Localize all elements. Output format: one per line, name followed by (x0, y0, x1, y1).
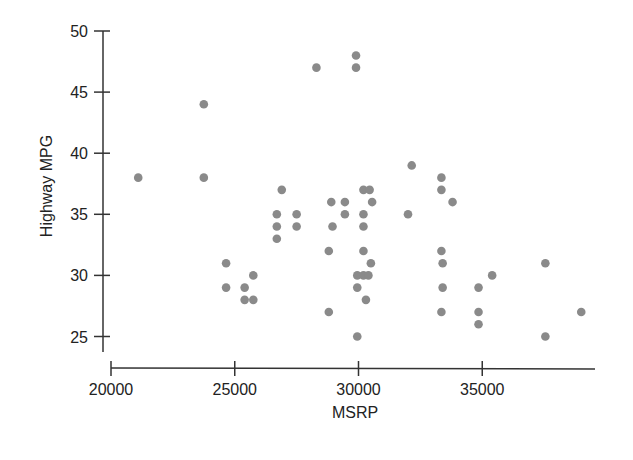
data-point (404, 210, 413, 219)
data-point (328, 222, 337, 231)
data-point (368, 198, 377, 207)
x-tick-label: 25000 (213, 381, 258, 398)
data-point (353, 332, 362, 341)
data-point (474, 320, 483, 329)
data-point (438, 259, 447, 268)
x-tick-label: 35000 (460, 381, 505, 398)
data-point (437, 308, 446, 317)
data-point (437, 186, 446, 195)
x-axis-line (111, 368, 595, 369)
x-tick-label: 20000 (89, 381, 134, 398)
data-point (249, 296, 258, 305)
data-point (407, 161, 416, 170)
data-point (273, 222, 282, 231)
y-axis-ticks: 253035404550 (70, 23, 110, 346)
data-point (273, 234, 282, 243)
data-point (367, 259, 376, 268)
data-point (448, 198, 457, 207)
data-point (327, 198, 336, 207)
x-axis-title: MSRP (332, 404, 378, 421)
data-points (134, 51, 586, 341)
data-point (353, 283, 362, 292)
x-axis: 20000250003000035000 MSRP (89, 361, 595, 421)
data-point (359, 247, 368, 256)
data-point (359, 222, 368, 231)
x-tick-label: 30000 (336, 381, 381, 398)
y-tick-label: 45 (70, 84, 88, 101)
y-tick-label: 30 (70, 267, 88, 284)
scatter-chart: 253035404550 Highway MPG 200002500030000… (0, 0, 633, 460)
data-point (134, 173, 143, 182)
y-tick-label: 50 (70, 23, 88, 40)
data-point (541, 259, 550, 268)
y-tick-label: 25 (70, 329, 88, 346)
x-axis-ticks: 20000250003000035000 (89, 361, 505, 398)
data-point (222, 259, 231, 268)
data-point (292, 222, 301, 231)
data-point (541, 332, 550, 341)
data-point (249, 271, 258, 280)
data-point (341, 210, 350, 219)
data-point (474, 308, 483, 317)
data-point (365, 186, 374, 195)
data-point (437, 247, 446, 256)
data-point (222, 283, 231, 292)
data-point (352, 51, 361, 60)
data-point (438, 283, 447, 292)
data-point (240, 296, 249, 305)
data-point (359, 210, 368, 219)
data-point (437, 173, 446, 182)
y-axis-title: Highway MPG (38, 135, 55, 237)
data-point (200, 173, 209, 182)
data-point (325, 247, 334, 256)
data-point (364, 271, 373, 280)
y-tick-label: 40 (70, 145, 88, 162)
data-point (277, 186, 286, 195)
data-point (292, 210, 301, 219)
data-point (577, 308, 586, 317)
data-point (325, 308, 334, 317)
data-point (474, 283, 483, 292)
y-tick-label: 35 (70, 206, 88, 223)
data-point (352, 63, 361, 72)
data-point (200, 100, 209, 109)
data-point (362, 296, 371, 305)
data-point (341, 198, 350, 207)
data-point (312, 63, 321, 72)
data-point (240, 283, 249, 292)
data-point (488, 271, 497, 280)
y-axis: 253035404550 Highway MPG (38, 23, 110, 352)
data-point (273, 210, 282, 219)
